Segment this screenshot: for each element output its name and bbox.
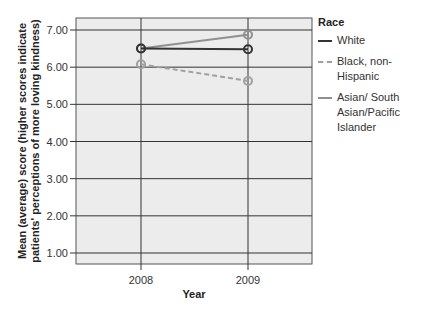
y-axis-ticks: 1.002.003.004.005.006.007.00: [47, 24, 76, 259]
dashed-line-swatch-icon: [318, 61, 332, 63]
y-axis-title: Mean (average) score (higher scores indi…: [16, 19, 41, 263]
legend-label: Asian/ South Asian/Pacific Islander: [337, 90, 433, 135]
legend-title: Race: [318, 16, 433, 28]
solid-line-swatch-icon: [318, 40, 332, 42]
x-tick-label: 2009: [236, 274, 260, 286]
legend-item-asian: Asian/ South Asian/Pacific Islander: [318, 90, 433, 135]
legend-item-white: White: [318, 33, 433, 48]
y-tick-label: 6.00: [47, 61, 68, 73]
solid-line-swatch-icon: [318, 97, 332, 99]
legend-item-black: Black, non-Hispanic: [318, 54, 433, 84]
x-axis-title: Year: [182, 288, 206, 300]
y-tick-label: 7.00: [47, 24, 68, 36]
y-tick-label: 4.00: [47, 136, 68, 148]
series-line: [141, 49, 248, 50]
x-axis-ticks: 20082009: [129, 274, 260, 286]
y-tick-label: 1.00: [47, 247, 68, 259]
svg-text:Mean (average) score (higher s: Mean (average) score (higher scores indi…: [16, 23, 28, 259]
x-tick-label: 2008: [129, 274, 153, 286]
y-tick-label: 3.00: [47, 173, 68, 185]
legend-label: White: [337, 33, 365, 48]
legend: Race White Black, non-Hispanic Asian/ So…: [318, 16, 433, 141]
y-tick-label: 5.00: [47, 98, 68, 110]
svg-text:patients' perceptions of more: patients' perceptions of more loving kin…: [29, 19, 41, 263]
legend-label: Black, non-Hispanic: [337, 54, 433, 84]
y-tick-label: 2.00: [47, 210, 68, 222]
